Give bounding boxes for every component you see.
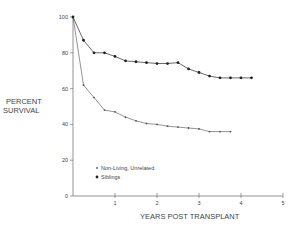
x-tick-label: 1 — [113, 200, 116, 206]
legend: Non-Living, Unrelated Siblings — [96, 165, 155, 180]
series-group — [72, 16, 253, 133]
legend-label-nonliving: Non-Living, Unrelated — [101, 165, 154, 171]
y-tick-label: 60 — [62, 86, 68, 92]
data-point-nonliving — [146, 123, 148, 125]
data-point-nonliving — [188, 127, 190, 129]
data-point-siblings — [145, 61, 148, 64]
y-tick-label: 40 — [62, 121, 68, 127]
x-axis-label: YEARS POST TRANSPLANT — [140, 212, 240, 221]
data-point-siblings — [187, 68, 190, 71]
series-line-siblings — [73, 17, 252, 78]
data-point-nonliving — [219, 131, 221, 133]
y-axis-label-line1: PERCENT — [6, 97, 42, 106]
data-point-nonliving — [198, 128, 200, 130]
y-tick-label: 20 — [62, 157, 68, 163]
x-tick-label: 5 — [281, 200, 284, 206]
data-point-siblings — [166, 62, 169, 65]
x-tick-label: 2 — [155, 200, 158, 206]
survival-chart: 02040608010012345 PERCENT SURVIVAL YEARS… — [0, 0, 300, 227]
data-point-siblings — [198, 71, 201, 74]
data-point-nonliving — [135, 120, 137, 122]
data-point-nonliving — [93, 97, 95, 99]
data-point-nonliving — [125, 116, 127, 118]
data-point-siblings — [103, 51, 106, 54]
data-point-siblings — [229, 76, 232, 79]
data-point-siblings — [177, 61, 180, 64]
data-point-siblings — [82, 39, 85, 42]
data-point-nonliving — [156, 124, 158, 126]
data-point-nonliving — [230, 131, 232, 133]
data-point-siblings — [135, 60, 138, 63]
axes: 02040608010012345 — [59, 14, 285, 206]
series-line-nonliving — [73, 17, 231, 132]
data-point-nonliving — [104, 109, 106, 111]
data-point-nonliving — [114, 111, 116, 113]
data-point-siblings — [114, 55, 117, 58]
legend-marker-nonliving-icon — [96, 167, 98, 169]
x-tick-label: 4 — [239, 200, 242, 206]
data-point-siblings — [219, 76, 222, 79]
data-point-siblings — [156, 62, 159, 65]
data-point-nonliving — [209, 131, 211, 133]
y-axis-label-line2: SURVIVAL — [3, 106, 39, 115]
y-tick-label: 0 — [65, 193, 68, 199]
data-point-nonliving — [177, 126, 179, 128]
data-point-siblings — [250, 76, 253, 79]
data-point-siblings — [240, 76, 243, 79]
y-tick-label: 100 — [59, 14, 68, 20]
legend-label-siblings: Siblings — [101, 174, 121, 180]
data-point-siblings — [72, 16, 75, 19]
data-point-siblings — [124, 59, 127, 62]
x-tick-label: 3 — [197, 200, 200, 206]
data-point-nonliving — [83, 84, 85, 86]
legend-marker-siblings-icon — [96, 176, 99, 179]
data-point-siblings — [93, 51, 96, 54]
data-point-nonliving — [167, 125, 169, 127]
data-point-siblings — [208, 75, 211, 78]
y-tick-label: 80 — [62, 50, 68, 56]
